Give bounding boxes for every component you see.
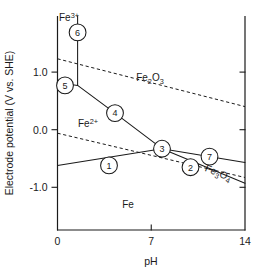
- x-tick-label-0: 0: [55, 235, 61, 247]
- label-fe2plus-superscript: 2+: [90, 117, 98, 126]
- x-axis-title: pH: [144, 255, 157, 267]
- marker-3[interactable]: 3: [154, 140, 171, 157]
- y-axis-tick-labels: 1.0 0.0 -1.0: [29, 66, 47, 193]
- y-tick-label-0.0: 0.0: [33, 124, 48, 136]
- label-fe2plus: Fe2+: [78, 117, 98, 129]
- marker-6-label: 6: [75, 28, 80, 38]
- marker-1[interactable]: 1: [101, 157, 118, 174]
- marker-3-label: 3: [159, 144, 164, 154]
- x-tick-label-14: 14: [239, 235, 251, 247]
- x-tick-label-7: 7: [148, 235, 154, 247]
- marker-6[interactable]: 6: [69, 24, 86, 41]
- label-fe2o3-sub2: 3: [160, 77, 164, 86]
- marker-5-label: 5: [62, 81, 67, 91]
- y-axis-title: Electrode potential (V vs. SHE): [3, 51, 15, 196]
- marker-7[interactable]: 7: [201, 148, 218, 165]
- y-axis-ticks: [52, 72, 58, 187]
- label-fe-metal: Fe: [122, 199, 134, 210]
- marker-2[interactable]: 2: [182, 159, 199, 176]
- y-tick-label-1.0: 1.0: [33, 66, 48, 78]
- pourbaix-diagram-figure: 1.0 0.0 -1.0 0 7 14 pH Electrode potenti…: [0, 0, 259, 273]
- marker-1-label: 1: [106, 161, 111, 171]
- label-fe3plus-superscript: 3+: [71, 11, 79, 20]
- marker-4-label: 4: [112, 108, 117, 118]
- label-fe2o3: Fe2O3: [136, 72, 164, 86]
- marker-2-label: 2: [188, 163, 193, 173]
- phase-region-labels: Fe3+ Fe2+ Fe2O3 Fe3O4 Fe: [59, 11, 233, 210]
- marker-7-label: 7: [207, 152, 212, 162]
- label-fe3plus-base: Fe: [59, 12, 71, 23]
- marker-4[interactable]: 4: [107, 105, 124, 122]
- x-axis-tick-labels: 0 7 14: [55, 235, 251, 247]
- y-tick-label--1.0: -1.0: [29, 181, 47, 193]
- label-fe2o3-fe: Fe: [136, 72, 148, 83]
- label-fe3plus: Fe3+: [59, 11, 79, 23]
- label-fe2plus-base: Fe: [78, 118, 90, 129]
- chart-svg: 1.0 0.0 -1.0 0 7 14 pH Electrode potenti…: [0, 0, 259, 273]
- marker-5[interactable]: 5: [57, 77, 74, 94]
